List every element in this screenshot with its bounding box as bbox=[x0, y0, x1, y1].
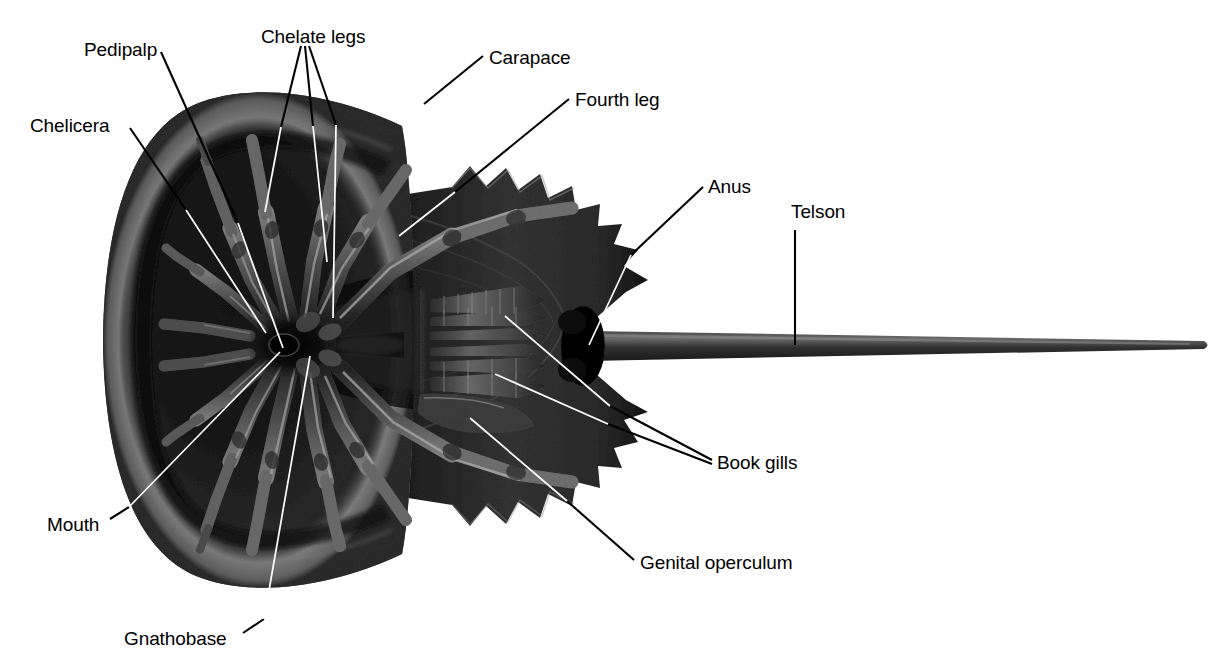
anatomy-figure: PedipalpChelate legsCarapaceFourth legCh… bbox=[0, 0, 1229, 652]
label-genital-operculum: Genital operculum bbox=[640, 553, 793, 572]
label-mouth: Mouth bbox=[47, 515, 99, 534]
label-telson: Telson bbox=[791, 202, 845, 221]
label-chelate-legs: Chelate legs bbox=[261, 27, 365, 46]
label-carapace: Carapace bbox=[489, 48, 571, 67]
label-anus: Anus bbox=[708, 177, 751, 196]
label-chelicera: Chelicera bbox=[30, 116, 109, 135]
label-gnathobase: Gnathobase bbox=[124, 629, 227, 648]
label-book-gills: Book gills bbox=[717, 453, 797, 472]
label-fourth-leg: Fourth leg bbox=[575, 90, 660, 109]
label-pedipalp: Pedipalp bbox=[84, 40, 157, 59]
